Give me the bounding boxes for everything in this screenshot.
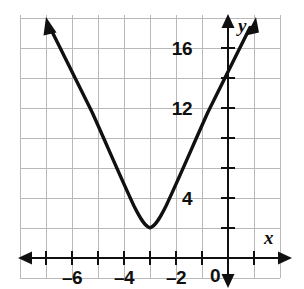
x-tick-label-minus6: –6 — [62, 268, 82, 287]
x-axis-arrow-right-icon — [278, 252, 292, 265]
x-axis — [18, 251, 292, 265]
y-tick-label-4: 4 — [182, 189, 192, 208]
x-tick-label-minus4: –4 — [114, 268, 134, 287]
x-tick-label-minus2: –2 — [166, 268, 186, 287]
y-axis — [221, 14, 235, 288]
parabola-arrow-left-icon — [44, 17, 57, 36]
grid-lines — [20, 15, 280, 278]
x-axis-name-label: x — [264, 228, 274, 247]
y-tick-label-12: 12 — [172, 99, 192, 118]
y-axis-arrow-down-icon — [222, 274, 235, 288]
y-tick-label-16: 16 — [172, 39, 192, 58]
y-axis-name-label: y — [238, 16, 246, 35]
origin-label-0: 0 — [210, 266, 220, 285]
coordinate-plane — [0, 0, 304, 289]
y-axis-arrow-up-icon — [222, 14, 235, 28]
parabola-arrow-right-icon — [246, 17, 259, 36]
graph-figure: 16 12 4 –6 –4 –2 0 x y — [0, 0, 304, 289]
